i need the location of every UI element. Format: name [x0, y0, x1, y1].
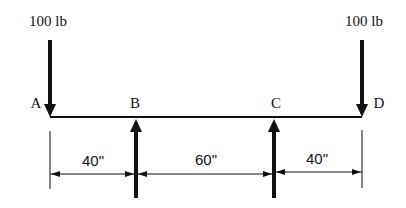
- load-label-d: 100 lb: [345, 13, 383, 29]
- reaction-arrow-c: [268, 119, 280, 198]
- dimension-label-bc: 60": [195, 151, 217, 168]
- load-arrow-a: [44, 40, 56, 117]
- point-label-d: D: [374, 95, 385, 111]
- arrowhead-down-icon: [356, 104, 368, 117]
- dim-arrow-right-icon: [263, 171, 272, 177]
- dimension-label-ab: 40": [82, 152, 104, 169]
- dimension-ab: [50, 171, 134, 177]
- dimension-bc: [138, 171, 272, 177]
- dimension-cd: [276, 169, 362, 175]
- dim-arrow-right-icon: [352, 169, 361, 175]
- dim-arrow-left-icon: [51, 171, 60, 177]
- reaction-arrow-b: [130, 119, 142, 198]
- arrowhead-up-icon: [268, 119, 280, 132]
- point-label-b: B: [130, 95, 140, 111]
- dim-arrow-left-icon: [276, 169, 285, 175]
- arrowhead-down-icon: [44, 104, 56, 117]
- beam-diagram: 100 lb 100 lb A B C D 40" 60" 40": [0, 0, 406, 208]
- dim-arrow-right-icon: [125, 171, 134, 177]
- dimension-label-cd: 40": [306, 150, 328, 167]
- dim-arrow-left-icon: [138, 171, 147, 177]
- load-label-a: 100 lb: [29, 13, 67, 29]
- point-label-a: A: [31, 95, 42, 111]
- arrowhead-up-icon: [130, 119, 142, 132]
- load-arrow-d: [356, 40, 368, 117]
- point-label-c: C: [271, 95, 281, 111]
